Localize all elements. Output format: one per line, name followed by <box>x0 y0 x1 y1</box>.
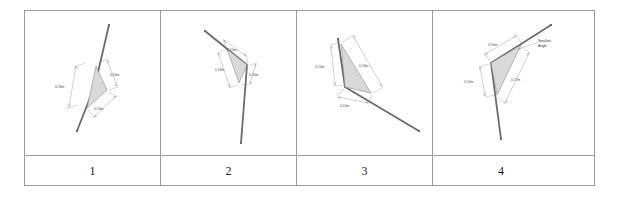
diagram-cell-1: 0.18m 0.10m <box>25 11 161 155</box>
column-label-3: 3 <box>297 156 433 186</box>
blank-row <box>25 185 594 196</box>
arrow-b <box>505 100 508 103</box>
arrow-b <box>243 53 246 56</box>
ext-line-a <box>337 89 344 96</box>
shaded-triangle <box>87 66 107 108</box>
smallest-angle-label-line1: Smallest <box>538 39 551 43</box>
bent-line <box>205 31 247 143</box>
ext-line-a <box>330 43 339 45</box>
dimension-top-label: 0.10m <box>227 48 237 52</box>
dimension-left-label: 0.18m <box>215 68 225 72</box>
dimension-right-label: 0.10m <box>110 73 120 77</box>
dimension-left: 0.18m <box>55 63 85 109</box>
arrow-b <box>250 81 253 84</box>
dimension-top-label: 0.10m <box>488 43 498 47</box>
diagram-cell-4: 0.10m 0.10m <box>433 11 569 155</box>
column-label-4: 4 <box>433 156 569 186</box>
ext-line-b <box>334 85 344 86</box>
arrow-b <box>227 83 230 87</box>
ext-line-a <box>479 64 489 67</box>
dimension-left-label: 0.18m <box>55 85 65 89</box>
arrow-b <box>67 103 70 107</box>
diagram-2: 0.10m 0.18m <box>161 11 297 155</box>
smallest-angle-label-line2: Angle <box>538 44 547 48</box>
ext-line-a <box>522 47 530 53</box>
diagram-1: 0.18m 0.10m <box>25 11 161 155</box>
ext-line-a <box>343 35 353 42</box>
arrow-b <box>513 33 516 37</box>
dim-line <box>69 66 76 107</box>
smallest-angle-annotation: Smallest Angle <box>518 39 551 51</box>
bent-line <box>77 25 109 131</box>
ext-line-b <box>109 87 118 90</box>
dimension-right-label: 0.10m <box>249 73 259 77</box>
arrow-b <box>333 82 336 85</box>
dimension-left-label: 0.10m <box>315 65 325 69</box>
dimension-left-label: 0.10m <box>464 80 474 84</box>
ext-line-b <box>485 95 495 97</box>
arrow-a <box>338 97 341 99</box>
comparison-table: 0.18m 0.10m <box>24 10 595 186</box>
dim-line <box>480 67 485 96</box>
label-row: 1 2 3 4 <box>25 155 594 186</box>
column-label-1: 1 <box>25 156 161 186</box>
diagram-3: 0.10m 0.18m <box>297 11 433 155</box>
diagram-4: 0.10m 0.10m <box>433 11 569 155</box>
arrow-a <box>479 67 482 70</box>
diagram-row: 0.18m 0.10m <box>25 11 594 155</box>
ext-line-a <box>98 59 107 63</box>
dim-line <box>331 46 335 85</box>
arrow-a <box>485 53 488 57</box>
arrow-a <box>526 53 529 56</box>
shaded-triangle <box>227 49 247 83</box>
diagram-cell-3: 0.10m 0.18m <box>297 11 433 155</box>
endpoint-top <box>337 38 339 40</box>
ext-line-b <box>516 35 521 43</box>
ext-line-b <box>498 97 505 104</box>
dimension-bottom-label: 0.10m <box>340 104 350 108</box>
endpoint-bottom <box>76 130 78 132</box>
arrow-a <box>218 53 221 57</box>
ext-line-b <box>373 87 383 93</box>
dimension-right-label: 0.18m <box>359 64 369 68</box>
arrow-b <box>483 93 486 96</box>
endpoint-top <box>204 30 206 32</box>
ext-line-a <box>75 63 85 67</box>
endpoint-bottom <box>418 130 420 132</box>
dimension-right-label: 0.17m <box>511 78 521 82</box>
endpoint-top <box>550 24 552 26</box>
ext-line-b <box>229 85 238 88</box>
dimension-bottom-label: 0.10m <box>94 107 104 111</box>
endpoint-bottom <box>500 138 502 140</box>
arrow-a <box>74 66 77 70</box>
dimension-left: 0.10m <box>464 64 495 97</box>
endpoint-bottom <box>240 142 242 144</box>
column-label-2: 2 <box>161 156 297 186</box>
arrow-a <box>330 46 333 49</box>
diagram-cell-2: 0.10m 0.18m <box>161 11 297 155</box>
ext-line-a <box>217 50 225 53</box>
ext-line-b <box>246 55 248 63</box>
shaded-triangle <box>341 44 371 93</box>
arrow-a <box>253 64 256 67</box>
endpoint-top <box>108 24 110 26</box>
figure-root: 0.18m 0.10m <box>0 0 618 198</box>
